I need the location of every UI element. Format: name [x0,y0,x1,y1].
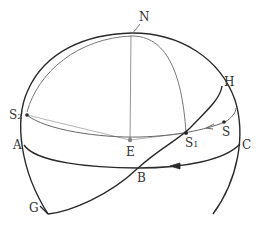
label-S2: S2 [9,108,22,122]
label-S1-sub: 1 [193,140,198,149]
label-A: A [12,138,22,152]
point-S [222,120,226,124]
point-S1 [184,131,188,135]
label-N: N [139,10,150,24]
axis-N-E [130,35,131,140]
label-H: H [224,75,234,89]
ecliptic-G-H [48,86,222,214]
label-S: S [222,125,230,139]
equator-arrow-icon [170,163,180,169]
label-S2-main: S [9,108,17,122]
point-S2 [25,113,29,117]
label-G: G [29,201,39,215]
label-S2-sub: 2 [17,112,22,121]
celestial-sphere-diagram: N H S2 A E S1 S C B G [0,0,261,226]
meridian-arc [27,36,186,133]
label-S1: S1 [185,136,198,150]
label-C: C [242,138,251,152]
label-S1-main: S [185,136,193,150]
label-E: E [126,145,135,159]
label-B: B [137,171,146,185]
point-E [128,138,132,142]
